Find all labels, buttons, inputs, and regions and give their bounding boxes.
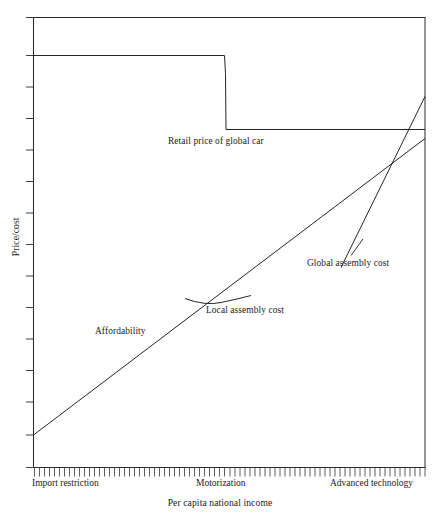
chart-figure: Price/cost Per capita national income Re… bbox=[0, 0, 440, 521]
series-label-local-assembly-cost: Local assembly cost bbox=[206, 306, 284, 315]
x-tick-label-advanced-technology: Advanced technology bbox=[330, 478, 413, 488]
x-tick-label-motorization: Motorization bbox=[196, 478, 246, 488]
series-retail-price-of-global-car bbox=[34, 56, 426, 130]
series-affordability bbox=[34, 139, 426, 436]
x-axis-title: Per capita national income bbox=[0, 498, 440, 508]
y-axis-title: Price/cost bbox=[11, 202, 21, 272]
y-axis-ticks bbox=[26, 18, 34, 468]
series-label-global-assembly-cost: Global assembly cost bbox=[307, 259, 389, 268]
series-label-retail-price: Retail price of global car bbox=[168, 137, 264, 146]
x-axis-minor-ticks bbox=[35, 468, 426, 477]
global-assembly-cost-leader-line bbox=[351, 239, 363, 256]
x-tick-label-import-restriction: Import restriction bbox=[32, 478, 99, 488]
series-label-affordability: Affordability bbox=[95, 327, 146, 336]
series-local-assembly-cost bbox=[185, 296, 251, 304]
series-global-assembly-cost bbox=[341, 97, 425, 268]
